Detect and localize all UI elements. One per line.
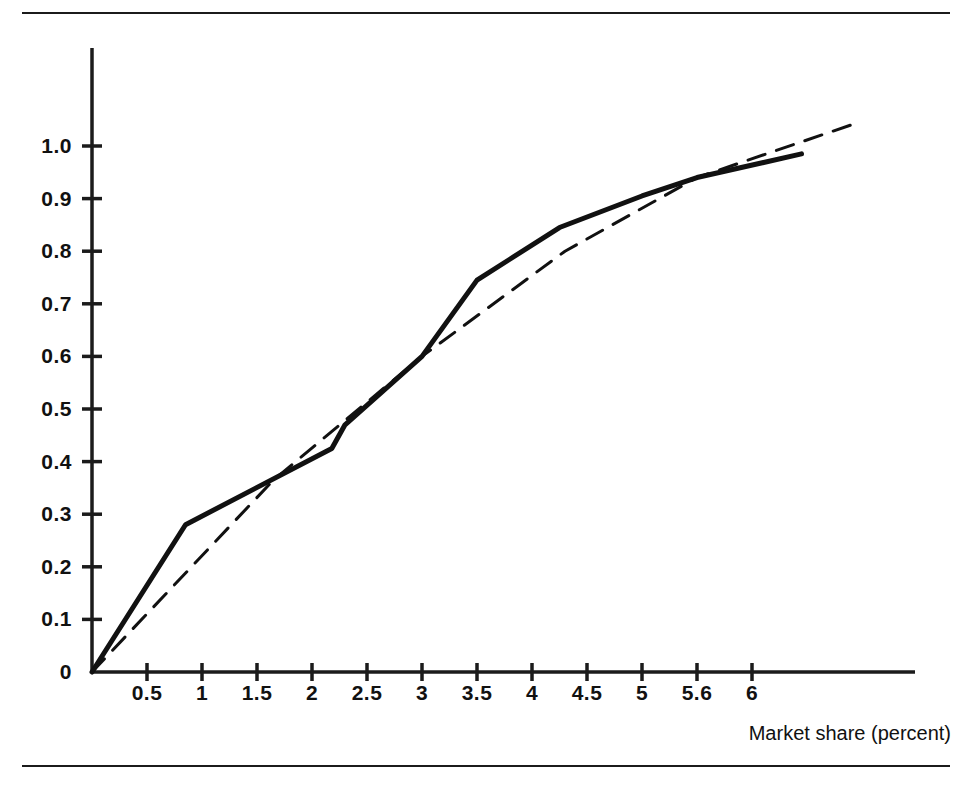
- y-tick-label: 0.9: [8, 187, 72, 211]
- figure-container: 0.511.522.533.544.555.66 00.10.20.30.40.…: [0, 0, 973, 791]
- axes-group: [82, 48, 915, 681]
- x-tick-label: 5.6: [682, 681, 713, 705]
- x-tick-label: 3.5: [462, 681, 493, 705]
- y-tick-label: 0.4: [8, 450, 72, 474]
- x-tick-label: 4.5: [572, 681, 603, 705]
- y-tick-label: 1.0: [8, 134, 72, 158]
- x-tick-label: 2: [306, 681, 318, 705]
- series-reference-curve: [92, 125, 851, 672]
- line-chart-plot: [0, 0, 973, 791]
- series-observed-curve: [92, 154, 802, 672]
- x-axis-title: Market share (percent): [749, 722, 951, 745]
- x-tick-label: 3: [416, 681, 428, 705]
- y-tick-label: 0.1: [8, 607, 72, 631]
- x-tick-label: 1: [196, 681, 208, 705]
- x-tick-label: 4: [526, 681, 538, 705]
- y-tick-label: 0.6: [8, 344, 72, 368]
- y-tick-label: 0.5: [8, 397, 72, 421]
- x-tick-label: 6: [746, 681, 758, 705]
- x-tick-label: 2.5: [352, 681, 383, 705]
- y-tick-label: 0: [8, 660, 72, 684]
- x-tick-label: 0.5: [132, 681, 163, 705]
- y-tick-label: 0.8: [8, 239, 72, 263]
- x-tick-label: 5: [636, 681, 648, 705]
- y-tick-label: 0.2: [8, 555, 72, 579]
- y-tick-label: 0.3: [8, 502, 72, 526]
- x-tick-label: 1.5: [242, 681, 273, 705]
- y-tick-label: 0.7: [8, 292, 72, 316]
- data-series-group: [92, 125, 851, 672]
